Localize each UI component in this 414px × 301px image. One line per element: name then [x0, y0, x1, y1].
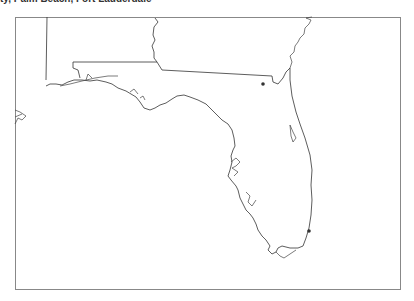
- louisiana-coast: [15, 110, 26, 124]
- state-border-al-ms: [46, 17, 47, 80]
- state-border-al-fl-west: [73, 62, 80, 78]
- atlantic-coast-georgia: [290, 17, 312, 68]
- tampa-bay: [231, 158, 240, 176]
- florida-coastline: [46, 68, 312, 254]
- florida-map: [0, 0, 414, 301]
- state-border-ga-fl: [157, 62, 290, 84]
- indian-river-lagoon: [290, 125, 296, 142]
- miami-area-marker: [307, 229, 311, 233]
- florida-keys: [276, 250, 296, 258]
- charlotte-harbor: [246, 192, 256, 206]
- jacksonville-area-marker: [261, 82, 265, 86]
- state-border-al-ga: [152, 18, 158, 62]
